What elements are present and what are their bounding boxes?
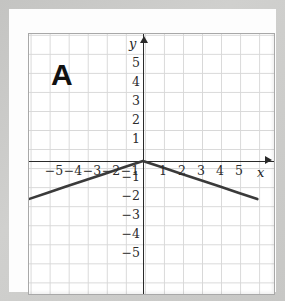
y-tick-3: 3 xyxy=(121,95,140,108)
y-tick--3: −3 xyxy=(121,209,140,222)
panel-label-a: A xyxy=(51,58,73,92)
x-axis-label: x xyxy=(257,165,264,180)
y-tick--4: −4 xyxy=(121,228,140,241)
y-tick-4: 4 xyxy=(121,76,140,89)
x-tick--5: −5 xyxy=(44,165,64,178)
x-tick-2: 2 xyxy=(172,165,192,178)
x-tick-4: 4 xyxy=(210,165,230,178)
coordinate-plane: A y x −5 −4 −3 −2 −1 1 2 3 4 5 5 4 3 2 1… xyxy=(28,33,275,295)
y-tick--2: −2 xyxy=(121,190,140,203)
x-tick--4: −4 xyxy=(63,165,83,178)
y-tick--1: −1 xyxy=(121,171,140,184)
y-tick-1: 1 xyxy=(121,133,140,146)
y-tick-2: 2 xyxy=(121,114,140,127)
x-tick--3: −3 xyxy=(82,165,102,178)
x-tick-1: 1 xyxy=(153,165,173,178)
y-tick-5: 5 xyxy=(121,57,140,70)
x-tick-5: 5 xyxy=(229,165,249,178)
y-tick--5: −5 xyxy=(121,247,140,260)
figure-card: A y x −5 −4 −3 −2 −1 1 2 3 4 5 5 4 3 2 1… xyxy=(9,9,276,292)
x-tick-3: 3 xyxy=(191,165,211,178)
x-tick--2: −2 xyxy=(101,165,121,178)
y-axis-label: y xyxy=(129,36,136,51)
